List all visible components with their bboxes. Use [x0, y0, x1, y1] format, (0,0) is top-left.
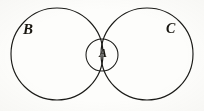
- figure-container: B C A: [0, 0, 204, 111]
- circle-c: [101, 8, 193, 100]
- circle-c-label: C: [166, 22, 176, 36]
- circle-b-label: B: [23, 22, 33, 37]
- circle-a-label: A: [99, 47, 107, 59]
